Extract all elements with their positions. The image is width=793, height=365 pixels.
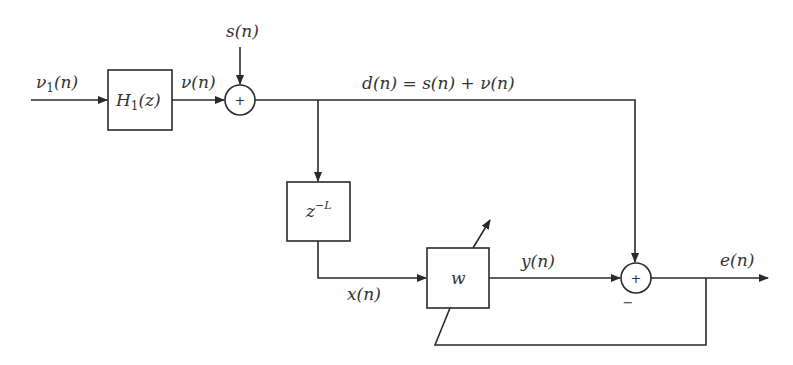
label-y: y(n) bbox=[520, 251, 555, 271]
sum2-minus-icon: − bbox=[623, 295, 634, 310]
label-d: d(n) = s(n) + ν(n) bbox=[362, 73, 515, 93]
label-v1: ν1(n) bbox=[36, 72, 78, 95]
label-s: s(n) bbox=[226, 21, 259, 41]
adaptation-arrow-icon bbox=[473, 220, 490, 248]
x-line bbox=[318, 241, 426, 278]
sum1-plus-icon: + bbox=[235, 93, 246, 108]
h1-label: H1(z) bbox=[115, 90, 161, 113]
sum2-plus-icon: + bbox=[631, 271, 642, 286]
block-diagram: ν1(n) H1(z) ν(n) s(n) + d(n) = s(n) + ν(… bbox=[0, 0, 793, 365]
label-x: x(n) bbox=[347, 284, 381, 304]
label-v: ν(n) bbox=[181, 72, 216, 92]
w-label: w bbox=[451, 268, 466, 288]
label-e: e(n) bbox=[720, 250, 754, 270]
